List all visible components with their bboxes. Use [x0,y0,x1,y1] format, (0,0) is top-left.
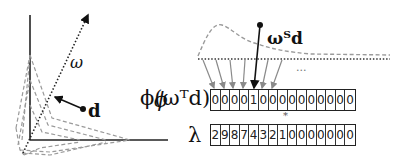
phi-cell: 0 [345,90,355,110]
multiply-symbol: * [283,111,288,121]
phi-cell: 0 [259,90,269,110]
phi-vector: 000010000000000 [210,89,356,111]
lambda-cell: 3 [259,125,269,145]
phi-cell: 0 [269,90,279,110]
bin-mapping-arrows [203,60,282,88]
lambda-cell: 0 [297,125,307,145]
phi-cell: 0 [317,90,327,110]
point-d-label: d [88,102,101,120]
phi-cell: 0 [307,90,317,110]
lambda-cell: 0 [345,125,355,145]
lambda-cell: 0 [336,125,346,145]
lambda-row-label: λ [188,125,201,146]
lambda-cell: 0 [317,125,327,145]
phi-cell: 0 [297,90,307,110]
lambda-cell: 2 [269,125,279,145]
phi-cell: 0 [230,90,240,110]
ellipsis: ... [296,62,307,73]
omega-label: ω [70,55,83,71]
phi-cell: 0 [288,90,298,110]
phi-cell: 1 [249,90,259,110]
phi-row-label: ϕ(ωᵀd) [140,88,210,109]
phi-cell: 0 [211,90,221,110]
lambda-cell: 9 [221,125,231,145]
phi-cell: 0 [278,90,288,110]
lambda-cell: 0 [288,125,298,145]
lambda-vector: 298743210000000 [210,124,356,146]
lambda-cell: 8 [230,125,240,145]
phi-cell: 0 [336,90,346,110]
lambda-cell: 0 [326,125,336,145]
lambda-cell: 0 [307,125,317,145]
phi-cell: 0 [221,90,231,110]
projection-arrow [254,22,263,88]
axes [30,15,168,140]
lambda-cell: 2 [211,125,221,145]
lambda-cell: 4 [249,125,259,145]
phi-cell: 0 [326,90,336,110]
phi-cell: 0 [240,90,250,110]
point-d-projection [55,97,86,112]
projection-label: ωᵀd [267,30,303,47]
lambda-cell: 1 [278,125,288,145]
lambda-cell: 7 [240,125,250,145]
